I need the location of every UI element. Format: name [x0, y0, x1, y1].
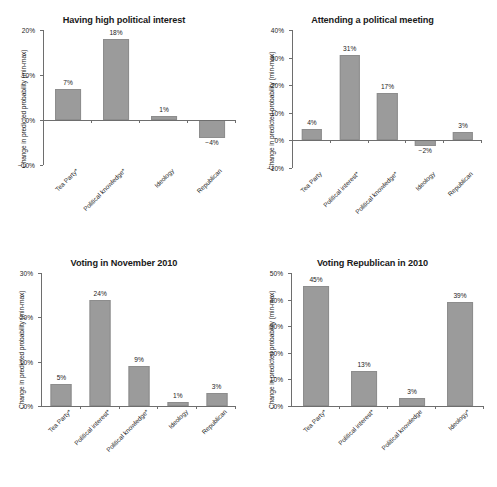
- bar-series: 5%Tea Party*24%Political interest*9%Poli…: [42, 273, 236, 406]
- chart-title: Attending a political meeting: [248, 15, 497, 25]
- y-axis-tick: 10%: [288, 379, 291, 380]
- bar-value-label: 24%: [94, 290, 107, 297]
- x-axis-category-label: Ideology: [153, 167, 175, 189]
- y-axis-tick-label: 20%: [20, 314, 33, 321]
- y-axis-tick-label: 10%: [20, 358, 33, 365]
- y-axis-tick-label: 20%: [271, 82, 284, 89]
- y-axis-tick: −10%: [289, 168, 292, 169]
- chart-title: Voting Republican in 2010: [248, 258, 497, 268]
- y-axis-tick: 30%: [289, 58, 292, 59]
- x-axis-category-label: Republican: [195, 167, 223, 195]
- bar[interactable]: [399, 398, 425, 406]
- bar[interactable]: [51, 384, 72, 406]
- bar[interactable]: [199, 120, 225, 138]
- bar-slot: 17%Political knowledge*: [369, 30, 407, 168]
- bar[interactable]: [377, 93, 397, 140]
- bar-series: 7%Tea Party*18%Political knowledge*1%Ide…: [44, 30, 236, 165]
- x-axis-category-label: Ideology: [414, 170, 436, 192]
- bar-value-label: 3%: [458, 122, 468, 129]
- x-axis-category-label: Ideology*: [447, 408, 471, 432]
- bar-slot: 4%Tea Party: [293, 30, 331, 168]
- x-axis-category-label: Political knowledge*: [105, 408, 150, 453]
- plot-area: −10%0%10%20%30%40%4%Tea Party31%Politica…: [292, 30, 482, 168]
- bar-series: 4%Tea Party31%Political interest*17%Poli…: [293, 30, 482, 168]
- bar-slot: 45%Tea Party*: [292, 273, 340, 406]
- y-axis-tick: 20%: [38, 317, 41, 318]
- bar-value-label: 18%: [109, 29, 122, 36]
- y-axis-tick-label: 10%: [22, 72, 35, 79]
- bar[interactable]: [55, 89, 81, 121]
- bar-value-label: 5%: [57, 374, 67, 381]
- bar-slot: −2%Ideology: [406, 30, 444, 168]
- bar-slot: −4%Republican: [188, 30, 236, 165]
- x-axis-category-label: Political knowledge*: [353, 170, 398, 215]
- bar-value-label: 1%: [159, 106, 169, 113]
- bar-slot: 13%Political interest*: [340, 273, 388, 406]
- bar-value-label: 9%: [134, 356, 144, 363]
- bar-slot: 1%Ideology: [140, 30, 188, 165]
- x-axis-category-label: Republican: [200, 408, 228, 436]
- bar-slot: 3%Republican: [197, 273, 236, 406]
- bar-value-label: 45%: [309, 276, 322, 283]
- y-axis-tick-label: 20%: [22, 27, 35, 34]
- bar[interactable]: [447, 302, 473, 406]
- bar[interactable]: [453, 132, 473, 140]
- bar-slot: 5%Tea Party*: [42, 273, 81, 406]
- x-axis-line: [292, 140, 482, 141]
- bar[interactable]: [206, 393, 227, 406]
- y-axis-tick: 20%: [289, 85, 292, 86]
- plot-area: −10%0%10%20%7%Tea Party*18%Political kno…: [43, 30, 236, 165]
- bar[interactable]: [302, 129, 322, 140]
- y-axis-tick: 40%: [289, 30, 292, 31]
- y-axis-tick: 30%: [288, 326, 291, 327]
- y-axis-tick-label: 40%: [271, 27, 284, 34]
- plot-area: 0%10%20%30%5%Tea Party*24%Political inte…: [41, 273, 236, 406]
- y-axis-tick-label: 0%: [274, 137, 284, 144]
- bar[interactable]: [90, 300, 111, 406]
- y-axis-tick-label: 10%: [270, 376, 283, 383]
- bar-value-label: 39%: [453, 292, 466, 299]
- x-axis-category-label: Political knowledge: [380, 408, 423, 451]
- bar-slot: 3%Political knowledge: [388, 273, 436, 406]
- figure-grid: Having high political interest Change in…: [0, 0, 497, 487]
- bar[interactable]: [303, 286, 329, 406]
- y-axis-tick-label: −10%: [267, 165, 284, 172]
- x-axis-category-label: Tea Party: [299, 170, 323, 194]
- y-axis-tick-label: 0%: [25, 117, 35, 124]
- bar-slot: 9%Political knowledge*: [120, 273, 159, 406]
- x-axis-category-label: Political interest*: [73, 408, 111, 446]
- bar-slot: 31%Political interest*: [331, 30, 369, 168]
- bar-slot: 1%Ideology: [158, 273, 197, 406]
- chart-title: Having high political interest: [0, 15, 248, 25]
- bar-value-label: 3%: [407, 388, 417, 395]
- bar-slot: 3%Republican: [444, 30, 482, 168]
- y-axis-tick: 30%: [38, 273, 41, 274]
- bar-value-label: −4%: [205, 139, 218, 146]
- y-axis-label: Change in predicted probability (min-max…: [20, 50, 27, 168]
- bar[interactable]: [103, 39, 129, 120]
- y-axis-tick-label: 0%: [23, 403, 33, 410]
- chart-panel-2: Voting in November 2010 Change in predic…: [0, 243, 248, 487]
- bar-slot: 24%Political interest*: [81, 273, 120, 406]
- chart-panel-0: Having high political interest Change in…: [0, 0, 248, 243]
- y-axis-tick: 20%: [288, 353, 291, 354]
- bar-value-label: 13%: [357, 361, 370, 368]
- bar-slot: 7%Tea Party*: [44, 30, 92, 165]
- y-axis-tick: 40%: [288, 300, 291, 301]
- x-axis-line: [291, 406, 484, 407]
- y-axis-tick-label: 50%: [270, 270, 283, 277]
- bar[interactable]: [351, 371, 377, 406]
- y-axis-tick: 10%: [40, 75, 43, 76]
- y-axis-tick: 50%: [288, 273, 291, 274]
- y-axis-tick: −10%: [40, 165, 43, 166]
- y-axis-tick-label: 10%: [271, 109, 284, 116]
- y-axis-tick-label: 30%: [270, 323, 283, 330]
- bar-value-label: 1%: [173, 392, 183, 399]
- bar[interactable]: [339, 55, 359, 141]
- x-axis-line: [43, 120, 236, 121]
- chart-panel-1: Attending a political meeting Change in …: [248, 0, 497, 243]
- y-axis-tick: 10%: [38, 362, 41, 363]
- bar[interactable]: [129, 366, 150, 406]
- bar-value-label: 3%: [212, 383, 222, 390]
- chart-panel-3: Voting Republican in 2010 Change in pred…: [248, 243, 497, 487]
